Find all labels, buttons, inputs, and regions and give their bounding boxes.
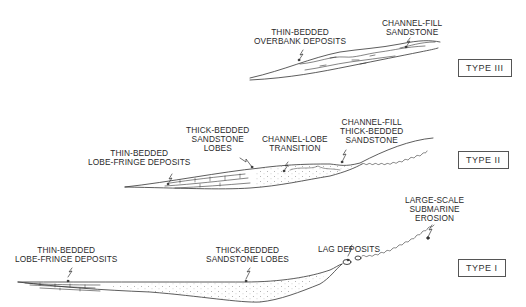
- label-line: SANDSTONE: [340, 136, 403, 145]
- label-large-scale-submarine-erosion: LARGE-SCALE SUBMARINE EROSION: [405, 196, 464, 223]
- label-line: OVERBANK DEPOSITS: [254, 37, 346, 46]
- label-thin-bedded-lobe-fringe-i: THIN-BEDDED LOBE-FRINGE DEPOSITS: [15, 246, 118, 264]
- label-lag-deposits: LAG DEPOSITS: [318, 245, 380, 254]
- label-line: LOBES: [186, 144, 249, 153]
- label-thin-bedded-lobe-fringe-ii: THIN-BEDDED LOBE-FRINGE DEPOSITS: [88, 149, 191, 167]
- label-channel-lobe-transition: CHANNEL-LOBE TRANSITION: [262, 135, 328, 153]
- label-line: SANDSTONE LOBES: [206, 255, 289, 264]
- label-line: TRANSITION: [262, 144, 328, 153]
- type-i-box: TYPE I: [458, 259, 506, 277]
- overbank-leader: [299, 50, 303, 60]
- type-iii-box: TYPE III: [458, 59, 512, 77]
- label-line: LOBE-FRINGE DEPOSITS: [88, 158, 191, 167]
- label-line: SANDSTONE: [382, 28, 442, 37]
- label-line: LOBE-FRINGE DEPOSITS: [15, 255, 118, 264]
- label-line: LAG DEPOSITS: [318, 245, 380, 254]
- label-thick-bedded-sandstone-lobes-ii: THICK-BEDDED SANDSTONE LOBES: [186, 126, 249, 153]
- label-thin-bedded-overbank-deposits: THIN-BEDDED OVERBANK DEPOSITS: [254, 28, 346, 46]
- type-ii-box: TYPE II: [458, 151, 509, 169]
- label-line: EROSION: [405, 214, 464, 223]
- label-channel-fill-sandstone-iii: CHANNEL-FILL SANDSTONE: [382, 19, 442, 37]
- label-channel-fill-thick-bedded-sandstone: CHANNEL-FILL THICK-BEDDED SANDSTONE: [340, 118, 403, 145]
- label-thick-bedded-sandstone-lobes-i: THICK-BEDDED SANDSTONE LOBES: [206, 246, 289, 264]
